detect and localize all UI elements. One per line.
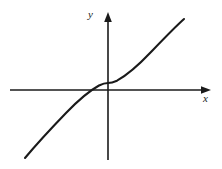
figure-container: y x	[0, 0, 222, 169]
curve-path	[25, 19, 184, 158]
x-axis-label: x	[203, 93, 208, 104]
axis-arrow-up-icon	[104, 12, 112, 22]
plot-canvas	[0, 0, 222, 169]
y-axis-label: y	[88, 9, 93, 20]
